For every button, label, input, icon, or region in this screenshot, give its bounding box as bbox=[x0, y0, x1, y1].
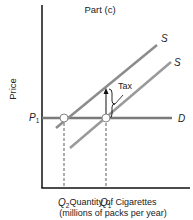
demand-label: D bbox=[178, 113, 185, 124]
chart-title: Part (c) bbox=[84, 4, 115, 15]
price-label: P1 bbox=[29, 112, 40, 124]
y-axis-label: Price bbox=[7, 78, 18, 100]
equilibrium-point-q2 bbox=[60, 114, 68, 122]
equilibrium-point-q1 bbox=[102, 114, 110, 122]
x-axis-label-line2: (millions of packs per year) bbox=[59, 208, 167, 218]
supply-lower-label: S bbox=[174, 57, 181, 68]
tax-label: Tax bbox=[118, 81, 133, 91]
supply-upper-label: S bbox=[161, 33, 168, 44]
diagram-canvas: Part (c) Price S S D Tax P1 Q2 Q1 Quanti… bbox=[0, 0, 193, 220]
x-axis-label-line1: Quantity of Cigarettes bbox=[69, 197, 157, 207]
